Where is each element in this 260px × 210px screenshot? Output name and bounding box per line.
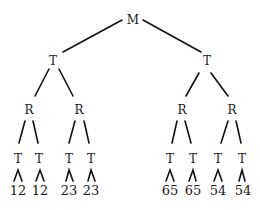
edge <box>69 121 75 143</box>
edge <box>66 170 73 181</box>
edge <box>143 20 201 52</box>
edge <box>186 73 199 96</box>
leaf-value: 23 <box>83 183 100 198</box>
node-level3: T <box>14 152 22 166</box>
edge <box>33 121 38 143</box>
edge <box>35 69 49 96</box>
edge <box>59 69 73 96</box>
node-level3: T <box>238 152 246 166</box>
node-level3: T <box>189 152 197 166</box>
leaf-value: 23 <box>61 183 78 198</box>
leaf-value: 65 <box>162 183 179 198</box>
node-level2: R <box>227 103 237 117</box>
edge <box>166 170 174 181</box>
leaf-value: 54 <box>235 183 252 198</box>
node-level3: T <box>87 152 95 166</box>
edge <box>84 121 89 143</box>
node-level1: T <box>203 54 211 68</box>
edge <box>221 121 228 143</box>
edge <box>63 20 122 52</box>
node-level2: R <box>24 103 34 117</box>
tree-diagram: M T T R R R R T T T T T T T T 12 12 23 2… <box>0 0 260 210</box>
edge <box>236 121 241 143</box>
edge <box>19 121 25 143</box>
edge <box>172 121 177 143</box>
node-level3: T <box>166 152 174 166</box>
edge <box>36 170 44 181</box>
leaf-value: 12 <box>32 183 49 198</box>
node-level1: T <box>49 54 57 68</box>
edge <box>14 170 22 181</box>
leaf-value: 65 <box>185 183 202 198</box>
node-root: M <box>127 13 139 27</box>
node-level3: T <box>65 152 73 166</box>
edge <box>211 73 228 96</box>
edge <box>189 170 196 181</box>
node-level2: R <box>74 103 84 117</box>
leaf-value: 12 <box>10 183 27 198</box>
edge <box>214 170 222 181</box>
leaf-value: 54 <box>210 183 227 198</box>
edge <box>185 121 191 143</box>
edge <box>88 170 95 181</box>
edge <box>239 170 245 181</box>
node-level3: T <box>214 152 222 166</box>
node-level3: T <box>35 152 43 166</box>
node-level2: R <box>177 103 187 117</box>
